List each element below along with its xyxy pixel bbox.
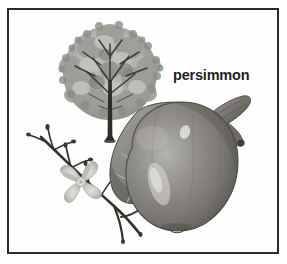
- plate-label: persimmon: [173, 67, 249, 83]
- illustration-plate: persimmon: [0, 0, 287, 264]
- botanical-artwork: [9, 10, 277, 252]
- flower: [60, 161, 101, 202]
- plate-frame: persimmon: [7, 8, 279, 254]
